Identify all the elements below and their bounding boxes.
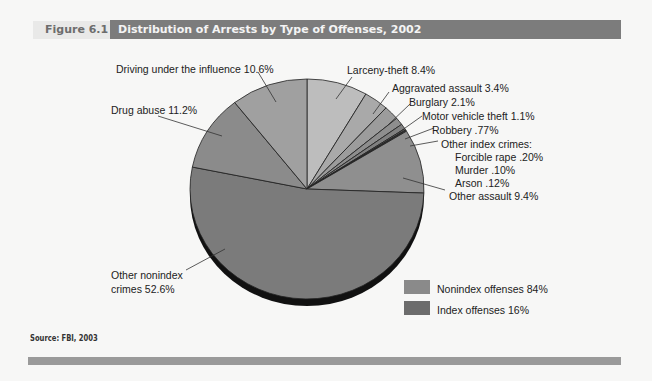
label-other-assault: Other assault 9.4% — [449, 190, 538, 203]
pie-slices — [190, 79, 424, 299]
legend-label-index: Index offenses 16% — [437, 304, 529, 317]
label-murder: Murder .10% — [455, 164, 515, 177]
source-note: Source: FBI, 2003 — [30, 334, 98, 343]
bottom-rule — [28, 357, 621, 365]
legend-swatch-nonindex — [404, 280, 430, 294]
label-larceny: Larceny-theft 8.4% — [347, 64, 435, 77]
label-robbery: Robbery .77% — [432, 124, 499, 137]
label-other-index-crimes: Other index crimes: — [441, 138, 532, 151]
label-aggravated-assault: Aggravated assault 3.4% — [392, 82, 509, 95]
legend-swatch-index — [404, 301, 430, 315]
legend-label-nonindex: Nonindex offenses 84% — [437, 283, 548, 296]
label-motor-vehicle-theft: Motor vehicle theft 1.1% — [422, 110, 535, 123]
label-dui: Driving under the influence 10.6% — [116, 63, 274, 76]
label-other-nonindex-line1: Other nonindex — [111, 269, 183, 282]
label-drug-abuse: Drug abuse 11.2% — [111, 104, 197, 117]
label-forcible-rape: Forcible rape .20% — [455, 151, 543, 164]
label-burglary: Burglary 2.1% — [409, 96, 475, 109]
label-other-nonindex-line2: crimes 52.6% — [111, 283, 175, 296]
pie-chart — [0, 0, 652, 381]
label-arson: Arson .12% — [455, 177, 509, 190]
